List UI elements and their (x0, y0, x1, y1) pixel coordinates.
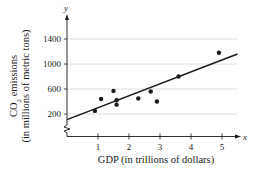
axes (64, 14, 241, 139)
y-tick-label: 1000 (43, 59, 62, 69)
y-ticks: 20060010001400 (43, 34, 67, 119)
x-tick-label: 3 (158, 142, 163, 152)
y-tick-label: 200 (48, 109, 62, 119)
x-axis-title: GDP (in trillions of dollars) (98, 154, 215, 166)
y-axis-arrow (65, 14, 69, 20)
data-point (155, 99, 159, 103)
data-point (217, 51, 221, 55)
x-axis-arrow (235, 135, 241, 139)
y-axis-break (64, 125, 70, 137)
data-point (136, 96, 140, 100)
scatter-chart: 20060010001400 12345 y x GDP (in trillio… (0, 0, 259, 180)
data-point (114, 102, 118, 106)
x-tick-label: 1 (96, 142, 101, 152)
x-tick-label: 4 (189, 142, 194, 152)
y-axis-title-co: CO (8, 102, 19, 117)
y-tick-label: 1400 (43, 34, 62, 44)
data-points (93, 51, 221, 114)
data-point (114, 98, 118, 102)
gridlines (67, 39, 237, 114)
y-axis-title-rest: emissions (8, 55, 19, 99)
x-axis-variable: x (242, 132, 247, 142)
x-tick-label: 5 (220, 142, 225, 152)
y-tick-label: 600 (48, 84, 62, 94)
y-axis-title-units: (in millions of metric tons) (20, 29, 32, 143)
data-point (149, 89, 153, 93)
y-axis-variable: y (63, 3, 68, 13)
data-point (176, 74, 180, 78)
data-point (99, 97, 103, 101)
data-point (93, 109, 97, 113)
x-tick-label: 2 (127, 142, 132, 152)
y-axis-title: CO2 emissions (in millions of metric ton… (8, 29, 32, 143)
data-point (111, 89, 115, 93)
